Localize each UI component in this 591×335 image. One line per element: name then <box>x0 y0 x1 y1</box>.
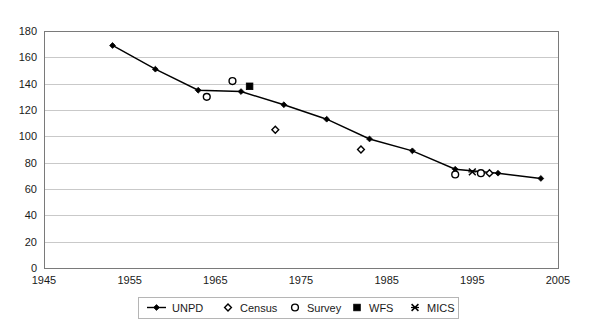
data-point-census <box>358 146 365 153</box>
y-tick-label: 100 <box>19 130 37 142</box>
data-point-unpd <box>110 43 116 49</box>
data-point-survey <box>478 170 485 177</box>
y-tick-label: 120 <box>19 104 37 116</box>
x-tick-label: 1975 <box>289 274 313 286</box>
data-point-unpd <box>195 87 201 93</box>
x-tick-label: 1945 <box>32 274 56 286</box>
x-tick-label: 1955 <box>117 274 141 286</box>
data-point-unpd <box>538 176 544 182</box>
series-mics <box>468 168 476 175</box>
chart-svg: 0204060801001201401601801945195519651975… <box>0 0 591 335</box>
y-tick-label: 140 <box>19 78 37 90</box>
data-point-mics <box>468 168 476 175</box>
plot-frame <box>45 32 559 269</box>
y-tick-label: 20 <box>25 236 37 248</box>
y-tick-label: 160 <box>19 51 37 63</box>
data-point-census <box>272 126 279 133</box>
y-tick-label: 60 <box>25 183 37 195</box>
data-point-survey <box>203 93 210 100</box>
data-point-census <box>486 170 493 177</box>
legend-marker-wfs <box>354 304 361 311</box>
chart-container: 0204060801001201401601801945195519651975… <box>0 0 591 335</box>
y-tick-label: 40 <box>25 209 37 221</box>
y-tick-label: 180 <box>19 25 37 37</box>
data-point-unpd <box>152 66 158 72</box>
data-point-unpd <box>495 170 501 176</box>
legend-label-mics: MICS <box>427 302 455 314</box>
x-tick-label: 1995 <box>460 274 484 286</box>
x-tick-label: 2005 <box>546 274 570 286</box>
data-point-unpd <box>409 148 415 154</box>
x-tick-label: 1985 <box>374 274 398 286</box>
data-point-unpd <box>281 102 287 108</box>
data-point-unpd <box>238 89 244 95</box>
data-point-survey <box>229 78 236 85</box>
legend-marker-survey <box>292 304 299 311</box>
data-point-wfs <box>246 83 253 90</box>
legend-label-survey: Survey <box>307 302 342 314</box>
legend-label-census: Census <box>240 302 278 314</box>
series-line-unpd <box>113 45 541 178</box>
legend-label-wfs: WFS <box>369 302 393 314</box>
legend-label-unpd: UNPD <box>172 302 203 314</box>
series-wfs <box>246 83 253 90</box>
x-tick-label: 1965 <box>203 274 227 286</box>
chart-legend: UNPDCensusSurveyWFSMICS <box>139 298 459 319</box>
y-tick-label: 0 <box>31 262 37 274</box>
data-point-survey <box>452 171 459 178</box>
y-tick-label: 80 <box>25 157 37 169</box>
data-point-unpd <box>324 116 330 122</box>
series-unpd <box>110 43 544 182</box>
